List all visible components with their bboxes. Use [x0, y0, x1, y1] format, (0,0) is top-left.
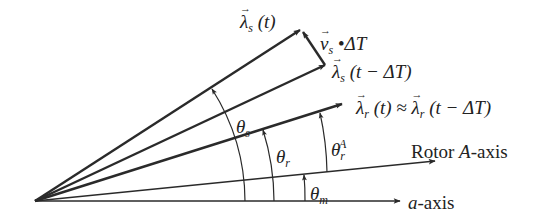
label-lambda-r: λr (t) ≈ λr (t − ΔT): [356, 98, 491, 120]
lambda-s-prev-vector: [35, 65, 325, 201]
theta-ra-arc: [320, 113, 327, 172]
lambda-s-vector: [35, 30, 300, 201]
label-vs-dt: vs •ΔT: [320, 34, 366, 56]
label-lambda-s-t: λs (t): [240, 12, 276, 34]
theta-r-arc: [263, 130, 274, 201]
label-a-axis: a-axis: [408, 193, 454, 212]
theta-m-arc: [304, 175, 305, 201]
label-theta-r: θr: [276, 147, 290, 169]
label-lambda-s-prev: λs (t − ΔT): [332, 62, 412, 84]
label-theta-s: θs: [236, 117, 250, 139]
label-theta-ra: θrA: [331, 138, 346, 162]
label-rotor-a-axis: Rotor A-axis: [411, 142, 508, 161]
label-theta-m: θm: [310, 184, 328, 206]
